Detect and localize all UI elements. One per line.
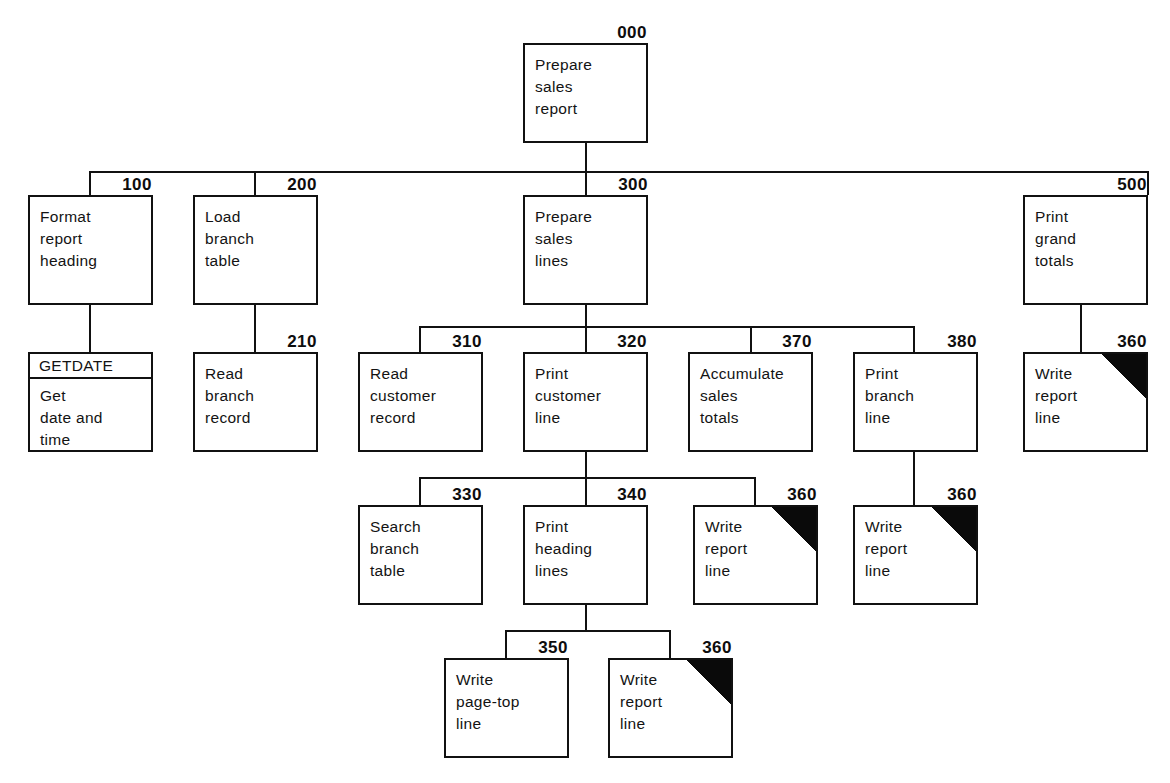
module-box-prepare-sales-lines[interactable]: Prepare sales lines xyxy=(523,195,648,305)
refnum-310: 310 xyxy=(355,333,482,351)
refnum-210: 210 xyxy=(190,333,317,351)
module-label: Print grand totals xyxy=(1035,206,1140,272)
refnum-360-c: 360 xyxy=(850,486,977,504)
module-box-write-report-line-d[interactable]: Write report line xyxy=(608,658,733,758)
connector-level5-bus xyxy=(505,630,670,632)
module-label: Write report line xyxy=(620,669,725,735)
module-label: Write report line xyxy=(705,516,810,582)
module-label: Search branch table xyxy=(370,516,475,582)
connector-level4-bus xyxy=(419,477,756,479)
module-label: Read customer record xyxy=(370,363,475,429)
module-box-print-grand-totals[interactable]: Print grand totals xyxy=(1023,195,1148,305)
connector-300-stem xyxy=(585,305,587,328)
refnum-360-d: 360 xyxy=(605,639,732,657)
connector-340-stem xyxy=(585,605,587,631)
refnum-100: 100 xyxy=(25,176,152,194)
module-box-write-report-line-b[interactable]: Write report line xyxy=(693,505,818,605)
module-box-read-customer-record[interactable]: Read customer record xyxy=(358,352,483,452)
connector-000-stem xyxy=(585,143,587,173)
module-box-accumulate-sales-totals[interactable]: Accumulate sales totals xyxy=(688,352,813,452)
module-label: Print heading lines xyxy=(535,516,640,582)
module-label: Write report line xyxy=(865,516,970,582)
module-label: Write report line xyxy=(1035,363,1140,429)
refnum-200: 200 xyxy=(190,176,317,194)
refnum-330: 330 xyxy=(355,486,482,504)
connector-drop-500 xyxy=(1147,171,1149,195)
module-box-write-report-line-c[interactable]: Write report line xyxy=(853,505,978,605)
refnum-360-a: 360 xyxy=(1020,333,1147,351)
module-label: Format report heading xyxy=(40,206,145,272)
module-box-write-report-line-a[interactable]: Write report line xyxy=(1023,352,1148,452)
refnum-300: 300 xyxy=(521,176,648,194)
module-box-print-customer-line[interactable]: Print customer line xyxy=(523,352,648,452)
module-label: Prepare sales lines xyxy=(535,206,640,272)
module-box-write-page-top-line[interactable]: Write page-top line xyxy=(444,658,569,758)
module-box-prepare-sales-report[interactable]: Prepare sales report xyxy=(523,43,648,143)
refnum-340: 340 xyxy=(520,486,647,504)
refnum-360-b: 360 xyxy=(690,486,817,504)
structure-chart-canvas: 000 Prepare sales report 100 Format repo… xyxy=(0,0,1170,783)
connector-320-stem xyxy=(585,452,587,478)
refnum-380: 380 xyxy=(850,333,977,351)
refnum-320: 320 xyxy=(520,333,647,351)
module-label: Get date and time xyxy=(40,385,145,451)
connector-level1-bus xyxy=(89,171,1149,173)
refnum-350: 350 xyxy=(441,639,568,657)
refnum-000: 000 xyxy=(520,24,647,42)
module-label: Read branch record xyxy=(205,363,310,429)
module-box-format-report-heading[interactable]: Format report heading xyxy=(28,195,153,305)
module-box-read-branch-record[interactable]: Read branch record xyxy=(193,352,318,452)
module-box-search-branch-table[interactable]: Search branch table xyxy=(358,505,483,605)
module-box-print-heading-lines[interactable]: Print heading lines xyxy=(523,505,648,605)
connector-level3-bus xyxy=(419,326,915,328)
module-label: Print branch line xyxy=(865,363,970,429)
connector-100-getdate xyxy=(89,305,91,352)
module-label: Print customer line xyxy=(535,363,640,429)
refnum-500: 500 xyxy=(1020,176,1147,194)
module-box-print-branch-line[interactable]: Print branch line xyxy=(853,352,978,452)
module-label: Prepare sales report xyxy=(535,54,640,120)
module-box-load-branch-table[interactable]: Load branch table xyxy=(193,195,318,305)
module-label: Accumulate sales totals xyxy=(700,363,805,429)
module-box-getdate[interactable]: GETDATE Get date and time xyxy=(28,352,153,452)
refnum-370: 370 xyxy=(685,333,812,351)
module-label: Load branch table xyxy=(205,206,310,272)
library-module-name: GETDATE xyxy=(30,354,151,379)
module-label: Write page-top line xyxy=(456,669,561,735)
